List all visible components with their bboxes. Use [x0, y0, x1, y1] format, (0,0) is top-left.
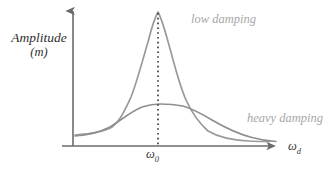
curves-group	[75, 12, 276, 142]
omegad-symbol: ω	[288, 139, 297, 153]
omega0-symbol: ω	[146, 147, 155, 161]
low-damping-annotation: low damping	[191, 13, 256, 26]
y-axis-label-text: Amplitude	[11, 30, 67, 45]
omega0-subscript: 0	[155, 154, 159, 164]
y-axis-label: Amplitude (m)	[8, 31, 70, 59]
low-damping-curve	[75, 12, 270, 142]
heavy-damping-curve	[75, 104, 276, 142]
x-axis-tick-label-omega0: ω0	[146, 148, 159, 163]
omegad-subscript: d	[297, 146, 301, 156]
x-axis-label-omegad: ωd	[288, 140, 301, 155]
y-axis-unit-text: (m)	[8, 46, 70, 59]
axis-group	[62, 11, 274, 146]
heavy-damping-annotation: heavy damping	[247, 112, 323, 125]
plot-canvas	[0, 0, 329, 172]
resonance-amplitude-figure: Amplitude (m) low damping heavy damping …	[0, 0, 329, 172]
